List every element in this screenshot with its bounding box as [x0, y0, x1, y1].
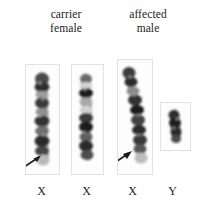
chromosome-panel-x1: [25, 64, 60, 175]
chromosome-panel-x2: [71, 64, 104, 175]
column-header-affected-male: affected male: [108, 7, 188, 35]
chromosome-label-x1: X: [27, 184, 56, 199]
arrow-annotation-x1: [25, 151, 48, 171]
chromosome-panel-x3: [117, 59, 153, 175]
chromosome-label-y1: Y: [158, 184, 187, 199]
chromosome-panel-y1: [160, 102, 191, 151]
chromosome-label-x2: X: [72, 184, 101, 199]
arrow-annotation-x3: [117, 148, 138, 170]
chromosome-label-x3: X: [118, 184, 147, 199]
chromosome-image-y1: [161, 103, 190, 150]
chromosome-image-x2: [72, 65, 103, 174]
karyotype-figure: carrier female affected male: [0, 0, 200, 211]
column-header-carrier-female: carrier female: [30, 7, 102, 35]
